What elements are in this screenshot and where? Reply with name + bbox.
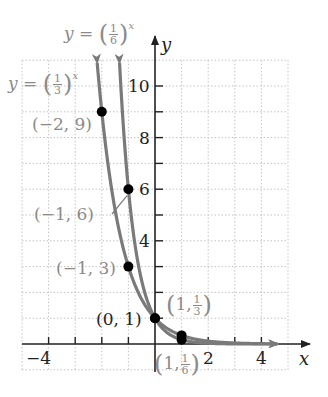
data-point (97, 107, 107, 117)
data-point (123, 262, 133, 272)
x-axis-label: x (299, 348, 309, 369)
y-tick-6: 6 (139, 179, 150, 199)
data-point (177, 335, 187, 345)
exponential-graph (0, 0, 328, 397)
y-tick-4: 4 (139, 231, 150, 251)
x-tick-2: 2 (203, 348, 214, 368)
point-label-1-sixth: (1,16) (154, 350, 200, 378)
point-label-neg1-3: (−1, 3) (56, 258, 116, 278)
data-point (123, 184, 133, 194)
point-label-neg1-6: (−1, 6) (34, 204, 94, 224)
y-tick-10: 10 (128, 76, 150, 96)
y-axis-label: y (161, 34, 171, 55)
x-tick-neg4: −4 (26, 348, 51, 368)
point-label-1-third: (1,13) (166, 291, 212, 319)
point-label-0-1: (0, 1) (96, 309, 142, 329)
x-tick-4: 4 (256, 348, 267, 368)
equation-sixth-label: y = (16)x (64, 20, 134, 48)
equation-third-label: y = (13)x (8, 70, 78, 98)
point-label-neg2-9: (−2, 9) (32, 114, 92, 134)
data-point (150, 313, 160, 323)
y-tick-8: 8 (139, 128, 150, 148)
